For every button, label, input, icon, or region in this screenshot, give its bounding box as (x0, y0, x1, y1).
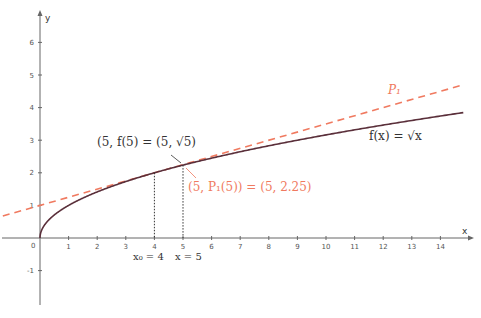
x-axis-label: x (462, 226, 468, 236)
x-tick-label: 4 (152, 243, 157, 251)
x-tick-label: 14 (436, 243, 445, 251)
p-point-label: (5, P₁(5)) = (5, 2.25) (188, 180, 312, 194)
x-tick-label: 1 (66, 243, 70, 251)
x-tick-label: 10 (322, 243, 331, 251)
x-tick-label: 5 (181, 243, 185, 251)
f-point-pointer (171, 155, 181, 163)
origin-label: 0 (31, 242, 35, 250)
p1-label: P₁ (387, 83, 401, 97)
y-tick-label: 3 (30, 137, 34, 145)
p-point-pointer (186, 168, 196, 178)
axes: 1234567891011121314 -1123456 (2, 10, 474, 305)
x-tick-label: 13 (407, 243, 416, 251)
x-tick-label: 7 (238, 243, 242, 251)
plot-area: 1234567891011121314 -1123456 x y 0 x₀ = … (0, 0, 481, 318)
y-tick-label: 6 (30, 39, 35, 47)
x-tick-label: 8 (267, 243, 271, 251)
y-tick-label: 2 (30, 169, 34, 177)
y-axis-label: y (45, 13, 51, 23)
x-tick-label: 9 (295, 243, 299, 251)
x-tick-label: 3 (124, 243, 128, 251)
tangent-line-p1 (3, 85, 463, 216)
x5-label: x = 5 (175, 251, 202, 262)
y-tick-label: -1 (27, 267, 34, 275)
y-tick-label: 4 (30, 104, 35, 112)
x0-label: x₀ = 4 (133, 251, 164, 262)
y-tick-label: 5 (30, 72, 34, 80)
x-tick-label: 12 (379, 243, 388, 251)
f-point-label: (5, f(5) = (5, √5) (97, 135, 196, 149)
x-tick-label: 2 (95, 243, 99, 251)
x-tick-label: 6 (209, 243, 214, 251)
x-tick-label: 11 (350, 243, 359, 251)
f-function-label: f(x) = √x (369, 129, 422, 143)
